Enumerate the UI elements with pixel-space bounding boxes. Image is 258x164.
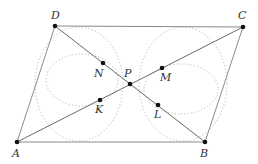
label-l: L — [154, 109, 161, 120]
label-a: A — [12, 148, 20, 159]
point-d — [53, 24, 58, 29]
diagram-canvas — [0, 0, 258, 164]
side-cd — [55, 26, 243, 27]
circle-left-inner — [46, 54, 118, 106]
label-m: M — [160, 72, 171, 83]
side-da — [17, 26, 55, 142]
label-b: B — [200, 148, 208, 159]
point-l — [156, 103, 161, 108]
label-n: N — [94, 68, 104, 79]
circle-right-outer — [139, 27, 227, 141]
point-a — [15, 140, 20, 145]
point-c — [241, 25, 246, 30]
point-b — [203, 140, 208, 145]
label-d: D — [51, 10, 60, 21]
parallelogram-diagram: D C A B P N M K L — [0, 0, 258, 164]
point-p — [128, 82, 133, 87]
label-p: P — [124, 68, 131, 79]
label-k: K — [95, 104, 103, 115]
point-m — [160, 66, 165, 71]
point-k — [98, 98, 103, 103]
side-bc — [205, 27, 243, 142]
label-c: C — [238, 10, 246, 21]
point-n — [101, 61, 106, 66]
